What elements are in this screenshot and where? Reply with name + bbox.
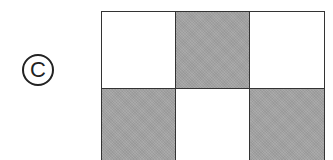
grid-cell-r2c2 [176, 89, 250, 160]
grid-cell-r2c1 [102, 89, 176, 160]
option-letter: C [30, 59, 46, 81]
option-label-c: C [22, 54, 54, 86]
pattern-grid [101, 11, 325, 160]
grid-cell-r1c1 [102, 12, 176, 89]
grid-cell-r2c3 [250, 89, 324, 160]
grid-cell-r1c3 [250, 12, 324, 89]
grid-cell-r1c2 [176, 12, 250, 89]
